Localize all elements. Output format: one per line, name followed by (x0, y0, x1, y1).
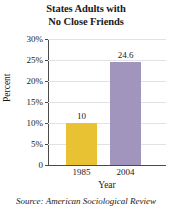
y-tick-mark (45, 165, 48, 166)
x-axis-title: Year (48, 180, 166, 190)
chart-title-line-2: No Close Friends (0, 16, 172, 29)
gridline (48, 60, 166, 61)
x-tick-label-2004: 2004 (117, 168, 135, 177)
y-tick-label: 25% (27, 56, 44, 65)
y-tick-label: 15% (27, 98, 44, 107)
x-axis-line (48, 165, 166, 166)
bar-1985: 10 (66, 123, 97, 165)
y-tick-label: 10% (27, 119, 44, 128)
y-axis-title: Percent (2, 74, 12, 103)
y-tick-mark (45, 60, 48, 61)
x-tick-label-1985: 1985 (73, 168, 91, 177)
y-tick-label: 0 (39, 161, 44, 170)
y-tick-mark (45, 144, 48, 145)
y-tick-label: 20% (27, 77, 44, 86)
y-tick-mark (45, 123, 48, 124)
source-note: Source: American Sociological Review (0, 196, 172, 206)
gridline (48, 39, 166, 40)
bar-value-label: 10 (77, 112, 86, 121)
chart-title: States Adults with No Close Friends (0, 3, 172, 28)
bar-2004: 24.6 (110, 62, 141, 165)
y-tick-label: 5% (31, 140, 43, 149)
y-tick-mark (45, 102, 48, 103)
chart-title-line-1: States Adults with (0, 3, 172, 16)
gridline (48, 102, 166, 103)
plot-area: 05%10%15%20%25%30% 1024.6 (48, 39, 166, 165)
gridline (48, 81, 166, 82)
y-tick-mark (45, 39, 48, 40)
bar-value-label: 24.6 (118, 51, 134, 60)
y-tick-mark (45, 81, 48, 82)
y-tick-label: 30% (27, 35, 44, 44)
